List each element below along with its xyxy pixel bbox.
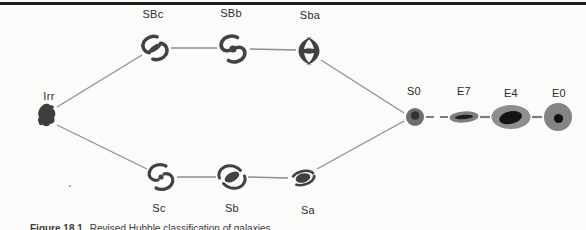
- sbc-galaxy-glyph: [141, 34, 168, 62]
- label-e7: E7: [457, 85, 471, 97]
- figure-number: Figure 18.1: [30, 223, 83, 230]
- print-speck: [69, 185, 71, 187]
- sc-galaxy-glyph: [149, 165, 173, 190]
- line-irr-sc: [57, 125, 147, 169]
- label-sc: Sc: [152, 202, 165, 214]
- label-sbb: SBb: [220, 7, 242, 19]
- figure-page: Irr SBc SBb Sba S0 E7 E4 E0 Sc Sb Sa Fig…: [0, 0, 586, 230]
- line-sb-sa: [248, 177, 288, 178]
- line-sa-s0: [317, 121, 404, 169]
- sb-galaxy-glyph: [219, 166, 245, 189]
- label-sa: Sa: [301, 204, 315, 216]
- sa-galaxy-glyph: [290, 168, 316, 187]
- sba-galaxy-glyph: [299, 37, 320, 65]
- figure-caption: Figure 18.1Revised Hubble classification…: [30, 223, 570, 230]
- label-sb: Sb: [225, 202, 239, 214]
- irr-galaxy-glyph: [38, 104, 55, 126]
- tuning-fork-diagram: [0, 0, 586, 230]
- sbb-galaxy-glyph: [221, 36, 245, 62]
- e0-galaxy-glyph: [544, 103, 572, 131]
- line-sbb-sba: [250, 49, 296, 50]
- figure-caption-text: Revised Hubble classification of galaxie…: [90, 223, 271, 230]
- e4-galaxy-glyph: [492, 105, 531, 129]
- label-sba: Sba: [300, 9, 320, 21]
- label-s0: S0: [407, 85, 421, 97]
- line-irr-sbc: [57, 55, 142, 107]
- label-e0: E0: [552, 87, 566, 99]
- e7-galaxy-glyph: [449, 110, 479, 123]
- s0-galaxy-glyph: [406, 108, 424, 126]
- label-irr: Irr: [43, 90, 54, 102]
- label-e4: E4: [504, 87, 518, 99]
- connector-lines: [57, 48, 404, 178]
- line-sba-s0: [321, 60, 404, 113]
- label-sbc: SBc: [142, 8, 163, 20]
